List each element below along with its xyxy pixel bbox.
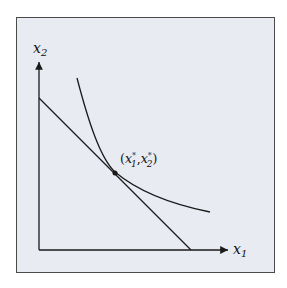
optimum-point xyxy=(113,171,118,176)
diagram-canvas: x2 x1 (x*1,x*2) xyxy=(0,0,287,288)
y-axis-label: x2 xyxy=(33,40,47,58)
indifference-curve xyxy=(77,78,210,212)
x-axis-label: x1 xyxy=(233,241,247,259)
optimum-point-label: (x*1,x*2) xyxy=(120,151,157,169)
